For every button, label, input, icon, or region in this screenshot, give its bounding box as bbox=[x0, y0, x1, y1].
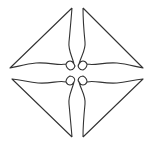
quadrant-bottom-right bbox=[78, 76, 143, 137]
quadrant-bottom-left bbox=[12, 76, 75, 137]
diamond-diagram bbox=[0, 0, 152, 148]
quadrant-top-left bbox=[10, 8, 75, 70]
quadrant-top-right bbox=[78, 8, 143, 70]
